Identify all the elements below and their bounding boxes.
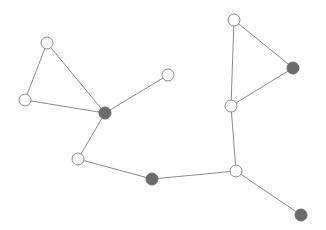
edge-J-K (231, 68, 293, 106)
filled-node-F (146, 173, 158, 185)
edge-A-C (47, 43, 105, 113)
edge-E-F (78, 159, 152, 179)
open-node-E (72, 153, 84, 165)
filled-node-H (295, 209, 307, 221)
filled-node-C (99, 107, 111, 119)
edge-B-C (25, 100, 105, 113)
open-node-G (230, 165, 242, 177)
edge-I-J (234, 20, 293, 68)
edge-C-D (105, 75, 168, 113)
edge-C-E (78, 113, 105, 159)
open-node-I (228, 14, 240, 26)
edge-I-K (231, 20, 234, 106)
edge-G-K (231, 106, 236, 171)
network-graph-canvas (0, 0, 326, 230)
edge-F-G (152, 171, 236, 179)
edge-G-H (236, 171, 301, 215)
open-node-A (41, 37, 53, 49)
open-node-K (225, 100, 237, 112)
edge-A-B (25, 43, 47, 100)
open-node-B (19, 94, 31, 106)
filled-node-J (287, 62, 299, 74)
open-node-D (162, 69, 174, 81)
edge-layer (25, 20, 301, 215)
